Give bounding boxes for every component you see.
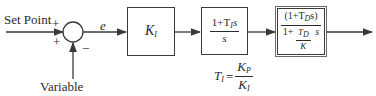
integral-transfer-function: 1+TIs s (210, 17, 239, 45)
plus-sign-top: + (52, 17, 59, 30)
error-label: e (100, 19, 106, 32)
derivative-transfer-function: (1+TDs) 1+ TD K s (281, 11, 321, 51)
gain-block: KI (127, 7, 175, 56)
integral-time-formula: TI = KP KI (214, 60, 253, 94)
derivative-block: (1+TDs) 1+ TD K s (277, 8, 325, 55)
summing-junction (63, 22, 83, 42)
integral-block: 1+TIs s (201, 7, 248, 55)
variable-label: Variable (40, 80, 83, 93)
minus-sign: − (82, 42, 89, 55)
plus-sign-bottom: + (53, 35, 60, 48)
gain-block-label: KI (145, 24, 157, 39)
setpoint-label: Set Point (4, 13, 51, 26)
